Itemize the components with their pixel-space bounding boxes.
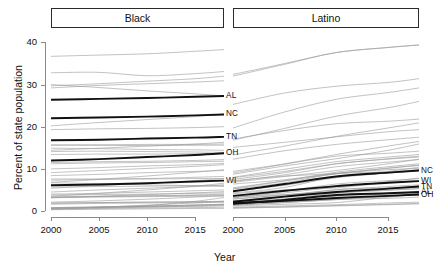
y-tick xyxy=(41,42,45,43)
y-tick xyxy=(41,85,45,86)
x-axis-line xyxy=(51,217,195,218)
series-line xyxy=(51,50,224,57)
x-axis-title: Year xyxy=(214,251,235,263)
y-tick xyxy=(41,211,45,212)
y-tick xyxy=(41,169,45,170)
x-tick-label: 2005 xyxy=(85,224,113,235)
x-tick-label: 2005 xyxy=(271,224,299,235)
series-line xyxy=(51,127,224,130)
y-axis-line xyxy=(45,42,46,211)
y-tick xyxy=(41,127,45,128)
series-label-oh: OH xyxy=(226,148,239,157)
x-axis-line xyxy=(233,217,388,218)
x-tick xyxy=(195,217,196,221)
plot-area-latino xyxy=(233,34,419,211)
x-tick-label: 2010 xyxy=(133,224,161,235)
x-tick xyxy=(336,217,337,221)
series-line xyxy=(51,85,224,96)
panel-header-latino: Latino xyxy=(233,8,419,28)
series-label-oh: OH xyxy=(421,190,434,199)
series-lines-black xyxy=(51,34,224,211)
series-line xyxy=(233,204,419,208)
series-line xyxy=(233,137,419,159)
series-label-wi: WI xyxy=(226,176,236,185)
x-tick xyxy=(285,217,286,221)
series-line-highlighted xyxy=(51,96,224,100)
series-line xyxy=(51,72,224,76)
plot-area-black xyxy=(51,34,224,211)
x-tick-label: 2010 xyxy=(322,224,350,235)
series-line-highlighted xyxy=(51,137,224,140)
x-tick xyxy=(388,217,389,221)
x-tick-label: 2015 xyxy=(181,224,209,235)
x-tick-label: 2000 xyxy=(37,224,65,235)
x-tick xyxy=(51,217,52,221)
panel-header-black: Black xyxy=(51,8,224,28)
panel-header-latino-label: Latino xyxy=(312,12,341,24)
x-tick-label: 2000 xyxy=(219,224,247,235)
series-line xyxy=(233,45,419,76)
y-tick-label: 40 xyxy=(0,36,37,47)
x-tick xyxy=(233,217,234,221)
series-lines-latino xyxy=(233,34,419,211)
series-line xyxy=(233,88,419,128)
y-tick-label: 0 xyxy=(0,205,37,216)
x-tick xyxy=(147,217,148,221)
series-label-al: AL xyxy=(226,91,236,100)
series-label-nc: NC xyxy=(421,166,433,175)
series-label-tn: TN xyxy=(226,132,237,141)
x-tick xyxy=(99,217,100,221)
y-axis-title: Percent of state population xyxy=(12,65,24,190)
x-tick-label: 2015 xyxy=(374,224,402,235)
series-label-nc: NC xyxy=(226,109,238,118)
series-line xyxy=(233,119,419,139)
panel-header-black-label: Black xyxy=(125,12,151,24)
series-line xyxy=(51,151,224,152)
series-line xyxy=(233,79,419,105)
